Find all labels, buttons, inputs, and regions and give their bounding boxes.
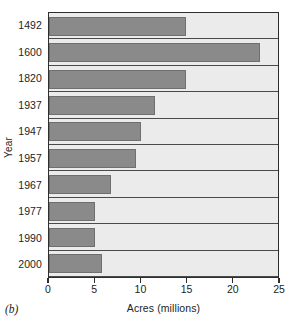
bar-slot — [49, 198, 278, 224]
x-axis-tick-label: 10 — [135, 284, 147, 295]
y-axis-tick-label: 1957 — [6, 145, 44, 172]
bar-slot — [49, 145, 278, 171]
bar-slot — [49, 119, 278, 145]
y-axis-tick-labels: 1492160018201937194719571967197719902000 — [6, 12, 44, 278]
y-axis-tick-label: 1600 — [6, 39, 44, 66]
bar-slot — [49, 39, 278, 65]
x-axis-tick-label: 5 — [91, 284, 97, 295]
bar — [49, 254, 102, 273]
bar — [49, 17, 186, 36]
y-axis-tick-label: 1947 — [6, 118, 44, 145]
bar — [49, 122, 141, 141]
bar-slot — [49, 66, 278, 92]
bar-slot — [49, 224, 278, 250]
bar — [49, 70, 186, 89]
x-axis-tick-label: 25 — [273, 284, 285, 295]
y-axis-tick-label: 1937 — [6, 92, 44, 119]
plot-area — [48, 12, 279, 278]
bars-layer — [49, 13, 278, 277]
y-axis-tick-label: 1977 — [6, 198, 44, 225]
bar — [49, 96, 155, 115]
bar-slot — [49, 251, 278, 277]
y-axis-tick-label: 1990 — [6, 225, 44, 252]
panel-caption: (b) — [5, 303, 18, 315]
bar-slot — [49, 13, 278, 39]
bar-slot — [49, 92, 278, 118]
x-axis-title: Acres (millions) — [48, 302, 279, 314]
bar — [49, 228, 95, 247]
y-axis-tick-label: 1967 — [6, 172, 44, 199]
y-axis-tick-label: 2000 — [6, 251, 44, 278]
y-axis-tick-label: 1492 — [6, 12, 44, 39]
bar — [49, 202, 95, 221]
gridline — [49, 276, 278, 277]
x-axis-tick-label: 15 — [181, 284, 193, 295]
x-axis-tick-label: 20 — [227, 284, 239, 295]
x-axis-tick-label: 0 — [45, 284, 51, 295]
bar — [49, 149, 136, 168]
bar-slot — [49, 171, 278, 197]
y-axis-tick-label: 1820 — [6, 65, 44, 92]
bar — [49, 175, 111, 194]
bar — [49, 43, 260, 62]
bar-chart-figure: Year 14921600182019371947195719671977199… — [0, 0, 288, 327]
x-axis-tick-labels: 0510152025 — [48, 284, 279, 298]
